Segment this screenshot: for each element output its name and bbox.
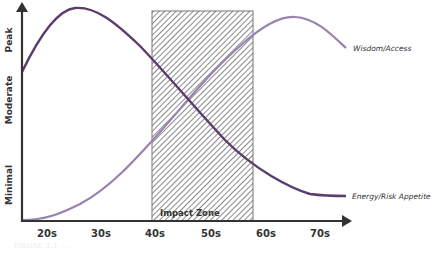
chart: Impact Zone Peak Moderate Minimal 20s 30… [0,0,434,253]
x-tick-70s: 70s [310,228,330,239]
y-label-peak: Peak [4,27,14,53]
y-label-moderate: Moderate [4,76,14,125]
impact-zone-label: Impact Zone [160,208,220,218]
x-tick-20s: 20s [37,228,57,239]
y-axis [16,2,28,222]
x-tick-30s: 30s [91,228,111,239]
figure-caption: FIGURE 1.1 ... [14,242,69,250]
y-label-minimal: Minimal [4,165,14,205]
x-tick-50s: 50s [201,228,221,239]
x-axis-arrow-icon [342,215,352,227]
x-tick-60s: 60s [256,228,276,239]
series-label-energy: Energy/Risk Appetite [352,192,431,201]
x-tick-40s: 40s [145,228,165,239]
y-axis-arrow-icon [16,2,28,12]
series-label-wisdom: Wisdom/Access [353,44,411,53]
